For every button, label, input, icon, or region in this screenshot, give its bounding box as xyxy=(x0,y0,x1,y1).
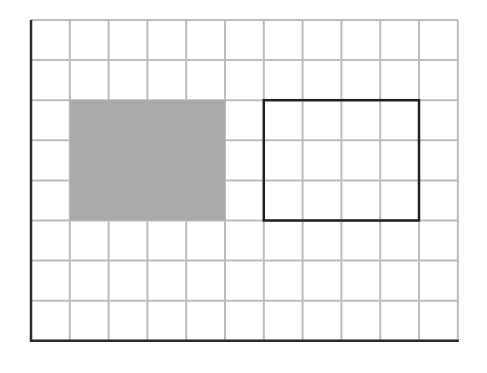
grid-diagram xyxy=(0,0,487,373)
shaded-rectangle xyxy=(70,100,225,220)
